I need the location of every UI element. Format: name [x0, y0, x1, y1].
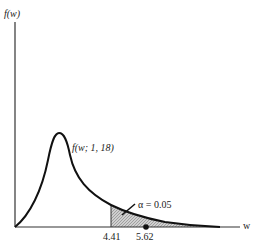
alpha-label: α = 0.05	[138, 199, 171, 210]
y-axis-label: f(w)	[4, 8, 20, 19]
tick-label-4-41: 4.41	[103, 231, 121, 242]
tick-label-5-62: 5.62	[136, 231, 154, 242]
x-axis-label: w	[243, 220, 250, 231]
observed-value-dot	[143, 224, 149, 230]
curve-label: f(w; 1, 18)	[72, 142, 114, 153]
f-distribution-plot	[0, 0, 257, 246]
